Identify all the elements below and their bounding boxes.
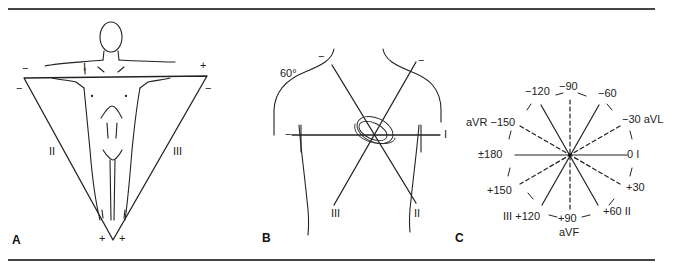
axis-label-plus-30: +30 [626, 182, 645, 193]
axis-label-minus-120: −120 [525, 86, 550, 97]
axis-label-avr-minus-150: aVR −150 [466, 117, 515, 128]
axis-label-plus-90: +90 [558, 213, 577, 224]
axis-label-avf: aVF [559, 227, 579, 238]
axis-label-plus-60-lead-ii: +60 II [603, 206, 631, 217]
axis-label-plus-150: +150 [487, 185, 512, 196]
axis-label-minus-90: −90 [559, 81, 578, 92]
axis-label-minus-30-avl: −30 aVL [622, 114, 663, 125]
axis-label-lead-iii-plus-120: III +120 [503, 211, 540, 222]
axis-label-plus-minus-180: ±180 [478, 149, 502, 160]
axis-label-zero-lead-i: 0 I [627, 149, 639, 160]
axis-label-minus-60: −60 [598, 88, 617, 99]
panel-c-letter: C [455, 231, 464, 245]
